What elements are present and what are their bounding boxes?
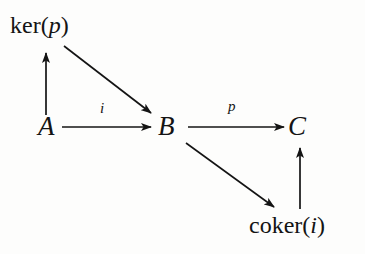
object-node-c: C [288,113,307,140]
arrow-ker-to-b [64,46,151,113]
object-node-a: A [38,113,55,140]
object-node-ker: ker(p) [10,13,69,37]
object-coker-paren-close: ) [317,212,325,238]
morphism-label-i: i [100,101,104,116]
commutative-diagram: B : horizontal --> C : horizontal --> ke… [0,0,365,254]
object-coker-name: coker [249,212,302,238]
object-node-coker: coker(i) [249,213,325,237]
arrow-b-to-coker [186,143,274,207]
morphism-label-p: p [228,99,236,114]
object-ker-paren-close: ) [61,12,69,38]
object-ker-name: ker [10,12,41,38]
object-ker-paren-open: ( [41,12,49,38]
object-node-b: B [158,113,175,140]
object-coker-arg: i [310,212,317,238]
object-ker-arg: p [49,12,61,38]
